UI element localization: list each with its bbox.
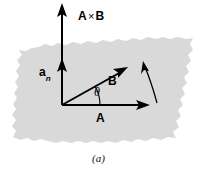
shaded-plane-shape bbox=[12, 37, 193, 143]
label-vector-a: A bbox=[96, 112, 105, 124]
label-vector-b: B bbox=[108, 75, 117, 87]
vector-cross-product-figure: A×B an B A θ (a) bbox=[0, 0, 197, 179]
figure-caption: (a) bbox=[0, 152, 197, 164]
label-normal-unit-vector: an bbox=[39, 66, 51, 81]
label-normal-base: a bbox=[39, 65, 46, 79]
label-cross-product-b: B bbox=[96, 9, 105, 23]
label-cross-product-a: A bbox=[78, 9, 87, 23]
multiplication-icon: × bbox=[87, 10, 96, 22]
label-normal-subscript: n bbox=[46, 74, 51, 83]
label-cross-product: A×B bbox=[78, 10, 104, 22]
label-angle-theta: θ bbox=[94, 86, 100, 98]
shaded-plane bbox=[12, 37, 193, 143]
